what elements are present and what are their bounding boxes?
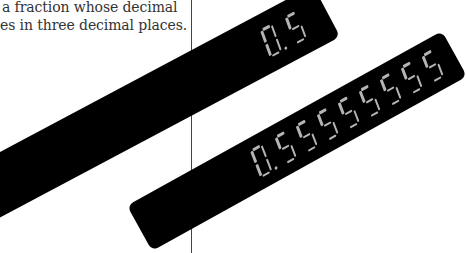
seven-segment-digit bbox=[421, 48, 444, 83]
segment-d bbox=[262, 171, 270, 177]
caption-line-2: es in three decimal places. bbox=[0, 16, 190, 34]
seven-segment-digit bbox=[316, 106, 339, 141]
display-digit-5 bbox=[282, 11, 308, 44]
segment-f bbox=[250, 151, 257, 164]
segment-f bbox=[422, 56, 429, 69]
segment-a bbox=[252, 145, 260, 151]
display-digit-5 bbox=[419, 49, 446, 82]
segment-e bbox=[255, 164, 262, 177]
segment-d bbox=[371, 111, 379, 117]
segment-f bbox=[285, 17, 291, 30]
decimal-point bbox=[274, 166, 278, 170]
seven-segment-digit bbox=[400, 60, 423, 95]
display-digit-5 bbox=[377, 73, 404, 106]
segment-d bbox=[296, 38, 304, 44]
segment-g bbox=[292, 25, 300, 31]
segment-c bbox=[353, 110, 360, 123]
seven-segment-digit bbox=[295, 118, 318, 153]
display-digit-0 bbox=[258, 24, 284, 57]
segment-d bbox=[350, 122, 358, 128]
segment-b bbox=[260, 145, 267, 158]
segment-f bbox=[380, 79, 387, 92]
segment-c bbox=[416, 75, 423, 88]
segment-g bbox=[387, 86, 395, 92]
display-digits bbox=[258, 11, 309, 57]
segment-a bbox=[287, 11, 295, 17]
segment-g bbox=[345, 109, 353, 115]
segment-a bbox=[403, 61, 411, 67]
segment-d bbox=[434, 76, 442, 82]
seven-segment-digit bbox=[358, 83, 381, 118]
segment-c bbox=[265, 158, 272, 171]
seven-segment-digit bbox=[379, 72, 402, 107]
segment-c bbox=[437, 63, 444, 76]
segment-f bbox=[296, 126, 303, 139]
display-digit-5 bbox=[398, 61, 425, 94]
segment-e bbox=[265, 44, 271, 57]
segment-f bbox=[401, 67, 408, 80]
segment-d bbox=[308, 146, 316, 152]
segment-f bbox=[260, 30, 266, 43]
segment-a bbox=[319, 108, 327, 114]
segment-g bbox=[429, 63, 437, 69]
segment-c bbox=[374, 98, 381, 111]
segment-a bbox=[298, 120, 306, 126]
seven-segment-digit bbox=[337, 95, 360, 130]
segment-d bbox=[413, 87, 421, 93]
segment-f bbox=[359, 91, 366, 104]
display-digit-5 bbox=[335, 96, 362, 129]
segment-a bbox=[382, 73, 390, 79]
segment-a bbox=[277, 131, 285, 137]
segment-c bbox=[332, 122, 339, 135]
segment-a bbox=[340, 96, 348, 102]
segment-c bbox=[275, 38, 281, 51]
segment-b bbox=[270, 25, 276, 38]
display-digit-5 bbox=[356, 84, 383, 117]
seven-segment-digit bbox=[260, 23, 283, 58]
segment-g bbox=[366, 98, 374, 104]
segment-c bbox=[395, 87, 402, 100]
segment-c bbox=[311, 133, 318, 146]
segment-c bbox=[300, 25, 306, 38]
segment-a bbox=[424, 50, 432, 56]
display-digit-0 bbox=[248, 144, 275, 177]
segment-g bbox=[282, 144, 290, 150]
segment-a bbox=[361, 85, 369, 91]
display-digit-5 bbox=[293, 119, 320, 152]
caption-text: a fraction whose decimal es in three dec… bbox=[0, 0, 190, 34]
decimal-point bbox=[284, 46, 288, 50]
segment-g bbox=[324, 121, 332, 127]
segment-f bbox=[338, 102, 345, 115]
seven-segment-digit bbox=[284, 10, 307, 45]
segment-d bbox=[272, 51, 280, 57]
segment-d bbox=[287, 157, 295, 163]
seven-segment-digit bbox=[274, 130, 297, 165]
segment-g bbox=[408, 74, 416, 80]
display-digit-5 bbox=[272, 131, 299, 164]
segment-a bbox=[262, 25, 270, 31]
segment-c bbox=[290, 145, 297, 158]
segment-g bbox=[303, 133, 311, 139]
seven-segment-digit bbox=[250, 143, 273, 178]
caption-line-1: a fraction whose decimal bbox=[0, 0, 190, 16]
segment-f bbox=[275, 137, 282, 150]
segment-f bbox=[317, 114, 324, 127]
segment-d bbox=[329, 134, 337, 140]
segment-d bbox=[392, 99, 400, 105]
display-digit-5 bbox=[314, 108, 341, 141]
